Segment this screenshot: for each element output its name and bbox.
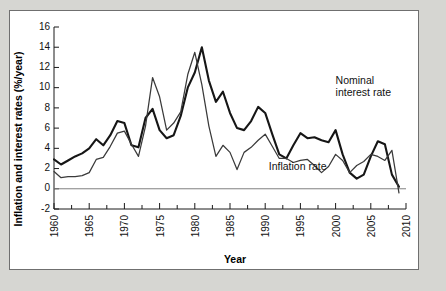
x-tick-label: 1995 [295, 215, 306, 238]
y-tick-label: 8 [44, 102, 50, 113]
x-axis-title: Year [224, 253, 246, 265]
y-tick-label: 16 [39, 21, 51, 32]
y-tick-label: 6 [44, 122, 50, 133]
x-tick-label: 1980 [190, 215, 201, 238]
x-tick-label: 2010 [401, 215, 412, 238]
series-annotation: Nominalinterest rate [336, 74, 392, 98]
x-axis: 1960196519701975198019851990199520002005… [49, 203, 412, 237]
x-tick-label: 1975 [155, 215, 166, 238]
chart-figure-panel: -20246810121416 196019651970197519801985… [9, 10, 419, 270]
x-tick-label: 1970 [119, 215, 130, 238]
y-axis: -20246810121416 [39, 21, 59, 214]
y-tick-label: 4 [44, 142, 50, 153]
x-tick-label: 2005 [366, 215, 377, 238]
x-tick-label: 2000 [331, 215, 342, 238]
data-series-group [54, 47, 399, 193]
y-axis-title: Inflation and interest rates (%/year) [12, 51, 24, 226]
y-tick-label: 0 [44, 182, 50, 193]
series-line-nominal-interest-rate [54, 47, 399, 187]
y-tick-label: 12 [39, 61, 51, 72]
x-tick-label: 1960 [49, 215, 60, 238]
series-annotation: Inflation rate [269, 160, 327, 172]
x-tick-label: 1965 [84, 215, 95, 238]
x-tick-label: 1985 [225, 215, 236, 238]
y-tick-label: 2 [44, 162, 50, 173]
inflation-and-interest-rates-line-chart: -20246810121416 196019651970197519801985… [10, 11, 418, 269]
x-tick-label: 1990 [260, 215, 271, 238]
y-tick-label: 14 [39, 41, 51, 52]
y-tick-label: 10 [39, 81, 51, 92]
y-tick-label: -2 [41, 203, 50, 214]
